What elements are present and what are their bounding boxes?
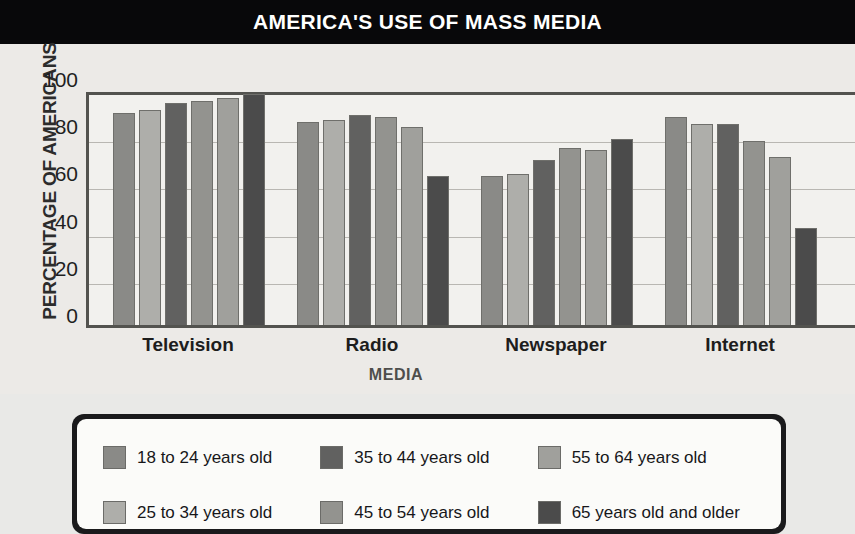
bar-group bbox=[297, 95, 453, 325]
x-category-label: Internet bbox=[705, 334, 775, 356]
legend-item: 65 years old and older bbox=[538, 496, 755, 529]
bar bbox=[717, 124, 739, 325]
bar bbox=[769, 157, 791, 325]
bar bbox=[611, 139, 633, 325]
bar bbox=[297, 122, 319, 325]
legend-panel: 18 to 24 years old35 to 44 years old55 t… bbox=[72, 414, 786, 534]
bar bbox=[349, 115, 371, 325]
y-tick-label: 100 bbox=[34, 68, 78, 92]
bar bbox=[427, 176, 449, 325]
bar bbox=[191, 101, 213, 325]
legend-label: 35 to 44 years old bbox=[354, 448, 489, 468]
legend-color-swatch bbox=[103, 446, 126, 469]
legend-color-swatch bbox=[538, 446, 561, 469]
bar bbox=[481, 176, 503, 325]
legend-label: 18 to 24 years old bbox=[137, 448, 272, 468]
x-axis-title: MEDIA bbox=[86, 366, 706, 384]
legend-item: 25 to 34 years old bbox=[103, 496, 320, 529]
bar bbox=[691, 124, 713, 325]
bar bbox=[665, 117, 687, 325]
y-axis-tick-labels: 020406080100 bbox=[34, 80, 78, 316]
legend-label: 65 years old and older bbox=[572, 503, 740, 523]
y-tick-label: 40 bbox=[34, 210, 78, 234]
legend-label: 55 to 64 years old bbox=[572, 448, 707, 468]
bar-group bbox=[113, 95, 269, 325]
legend-items-container: 18 to 24 years old35 to 44 years old55 t… bbox=[77, 419, 781, 529]
bar-group bbox=[481, 95, 637, 325]
bar bbox=[165, 103, 187, 325]
bar bbox=[533, 160, 555, 325]
legend-label: 25 to 34 years old bbox=[137, 503, 272, 523]
plot-area bbox=[86, 92, 855, 328]
legend-color-swatch bbox=[103, 501, 126, 524]
bar bbox=[139, 110, 161, 325]
bar bbox=[795, 228, 817, 325]
title-banner: AMERICA'S USE OF MASS MEDIA bbox=[0, 0, 855, 44]
y-tick-label: 0 bbox=[34, 304, 78, 328]
y-tick-label: 80 bbox=[34, 115, 78, 139]
legend-color-swatch bbox=[320, 446, 343, 469]
y-tick-label: 60 bbox=[34, 162, 78, 186]
bars-layer bbox=[89, 95, 855, 325]
bar bbox=[585, 150, 607, 325]
bar bbox=[113, 113, 135, 325]
bar bbox=[243, 94, 265, 325]
bar bbox=[375, 117, 397, 325]
legend-item: 35 to 44 years old bbox=[320, 441, 537, 474]
legend-label: 45 to 54 years old bbox=[354, 503, 489, 523]
bar bbox=[559, 148, 581, 325]
chart-title: AMERICA'S USE OF MASS MEDIA bbox=[253, 10, 602, 34]
bar bbox=[401, 127, 423, 325]
legend-color-swatch bbox=[320, 501, 343, 524]
bar bbox=[507, 174, 529, 325]
legend-color-swatch bbox=[538, 501, 561, 524]
x-category-label: Newspaper bbox=[505, 334, 606, 356]
legend-item: 45 to 54 years old bbox=[320, 496, 537, 529]
bar-group bbox=[665, 95, 821, 325]
y-tick-label: 20 bbox=[34, 257, 78, 281]
x-axis-category-labels: TelevisionRadioNewspaperInternet bbox=[86, 334, 855, 362]
x-category-label: Radio bbox=[346, 334, 399, 356]
bar bbox=[743, 141, 765, 325]
chart-region: PERCENTAGE OF AMERICANS 020406080100 Tel… bbox=[0, 44, 855, 394]
legend-item: 55 to 64 years old bbox=[538, 441, 755, 474]
legend-item: 18 to 24 years old bbox=[103, 441, 320, 474]
bar bbox=[217, 98, 239, 325]
x-category-label: Television bbox=[142, 334, 234, 356]
bar bbox=[323, 120, 345, 325]
